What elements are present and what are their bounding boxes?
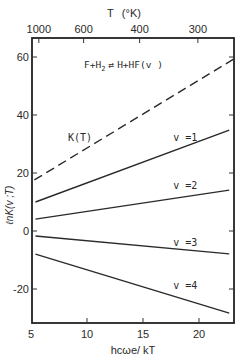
y-tick-label: 0 [23,225,29,237]
reaction-title: F+H2⇄H+HF(v ) [84,59,163,73]
series-line-k-t- [34,59,233,180]
series-label: v =3 [173,237,197,248]
top-tick-label: 400 [130,23,148,35]
y-tick-label: 60 [17,51,29,63]
top-tick-label: 1000 [27,23,51,35]
series-label: v =4 [173,280,197,291]
y-axis-label: ℓnK(v ;T) [4,186,15,226]
axis-ticks: 5101520-2002040601000600400300 [13,23,234,340]
reaction-equilibrium-chart: 5101520-2002040601000600400300 K(T)v =1v… [0,0,239,363]
top-tick-label: 600 [74,23,92,35]
top-tick-label: 300 [189,23,207,35]
x-tick-label: 15 [137,328,149,340]
series-label: v =2 [173,180,197,191]
y-tick-label: 20 [17,167,29,179]
data-series [34,59,233,313]
y-tick-label: 40 [17,109,29,121]
x-tick-label: 10 [81,328,93,340]
y-tick-label: -20 [13,283,29,295]
series-line-v-4 [35,254,229,313]
series-label: v =1 [173,132,197,143]
plot-border [32,38,234,323]
top-axis-title: T(°K) [107,7,141,19]
plot-frame [32,38,234,323]
series-label: K(T) [68,132,92,143]
series-line-v-2 [35,190,229,219]
x-tick-label: 20 [193,328,205,340]
x-axis-label: hcωe/ kT [111,344,156,356]
series-line-v-3 [35,236,229,254]
x-tick-label: 5 [28,328,34,340]
series-line-v-1 [35,130,229,202]
